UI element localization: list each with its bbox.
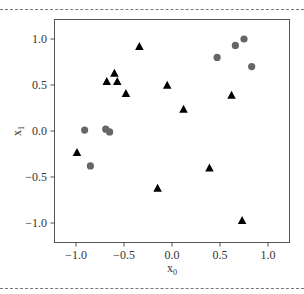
triangle-marker [113,77,122,85]
circle-marker [81,126,88,133]
scatter-chart: −1.0−0.50.00.51.0 1.00.50.0−0.5−1.0 x0 x… [0,0,304,294]
triangle-marker [153,184,162,192]
x-tick-label: −1.0 [65,248,87,262]
y-axis-label-sub: 1 [17,126,26,130]
y-tick-label: 1.0 [32,32,47,46]
y-tick-label: −1.0 [25,216,47,230]
y-axis-label: x1 [10,126,26,136]
triangle-marker [227,91,236,99]
circle-marker [214,54,221,61]
circle-marker [248,63,255,70]
y-tick-label: 0.0 [32,124,47,138]
triangle-marker [163,81,172,89]
y-tick-label: −0.5 [25,170,47,184]
x-axis-label: x0 [167,261,177,277]
x-tick-label: −0.5 [113,248,135,262]
triangle-marker [135,42,144,50]
triangle-marker [238,216,247,224]
triangle-marker [102,77,111,85]
triangle-marker [122,89,131,97]
y-tick-label: 0.5 [32,78,47,92]
circle-marker [232,42,239,49]
circle-marker [106,128,113,135]
x-tick-label: 0.5 [213,248,228,262]
x-axis-ticks: −1.0−0.50.00.51.0 [65,243,275,263]
data-points [73,35,256,224]
plot-area-frame [55,20,290,243]
circle-marker [87,162,94,169]
x-tick-label: 0.0 [165,248,180,262]
triangle-marker [205,164,214,172]
y-axis-ticks: 1.00.50.0−0.5−1.0 [25,32,54,230]
triangle-marker [73,148,82,156]
x-axis-label-sub: 0 [173,268,177,277]
triangle-marker [179,105,188,113]
circle-marker [240,35,247,42]
x-tick-label: 1.0 [261,248,276,262]
triangle-marker [110,69,119,77]
